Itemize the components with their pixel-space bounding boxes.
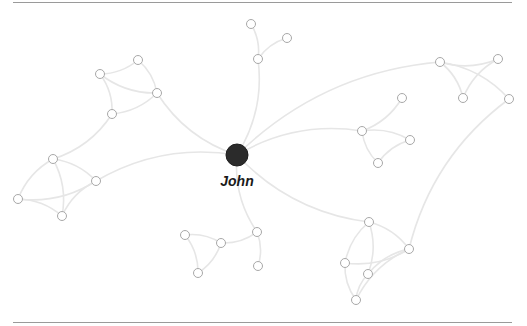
graph-node[interactable]: [283, 34, 292, 43]
graph-node[interactable]: [253, 228, 262, 237]
graph-edge: [62, 181, 96, 216]
graph-node[interactable]: [406, 136, 415, 145]
graph-node[interactable]: [365, 218, 374, 227]
graph-edge: [53, 159, 64, 216]
graph-edge: [237, 129, 362, 155]
graph-edge: [237, 155, 369, 222]
graph-edge: [440, 62, 509, 99]
graph-node[interactable]: [96, 70, 105, 79]
graph-edge: [18, 159, 53, 199]
graph-node[interactable]: [494, 55, 503, 64]
graph-node[interactable]: [181, 231, 190, 240]
graph-node[interactable]: [247, 20, 256, 29]
center-node-label: John: [220, 173, 253, 189]
graph-edge: [100, 60, 138, 74]
graph-edge: [157, 93, 237, 155]
network-graph: John: [0, 0, 527, 326]
graph-edge: [345, 263, 356, 300]
graph-node[interactable]: [254, 55, 263, 64]
graph-node[interactable]: [358, 127, 367, 136]
graph-edge: [198, 243, 221, 273]
graph-edge: [440, 62, 463, 98]
graph-edge: [100, 74, 112, 114]
graph-node[interactable]: [398, 94, 407, 103]
graph-node[interactable]: [352, 296, 361, 305]
graph-node[interactable]: [134, 56, 143, 65]
graph-node[interactable]: [374, 159, 383, 168]
graph-node[interactable]: [405, 245, 414, 254]
graph-edge: [362, 131, 378, 163]
graph-edge: [18, 199, 62, 216]
graph-edge: [18, 181, 96, 200]
graph-edge: [53, 159, 96, 181]
graph-node[interactable]: [505, 95, 514, 104]
graph-node[interactable]: [459, 94, 468, 103]
graph-node[interactable]: [108, 110, 117, 119]
graph-node[interactable]: [436, 58, 445, 67]
graph-edge: [362, 130, 410, 140]
center-node-john[interactable]: [226, 144, 248, 166]
graph-edge: [185, 235, 198, 273]
edge-layer: [18, 24, 509, 300]
graph-edge: [96, 152, 237, 181]
graph-edge: [378, 140, 410, 163]
graph-node[interactable]: [49, 155, 58, 164]
graph-edge: [369, 222, 409, 249]
graph-node[interactable]: [364, 270, 373, 279]
graph-edge: [362, 98, 402, 131]
graph-edge: [112, 93, 157, 114]
graph-node[interactable]: [194, 269, 203, 278]
graph-node[interactable]: [341, 259, 350, 268]
graph-edge: [138, 60, 157, 93]
graph-edge: [409, 99, 509, 249]
graph-edge: [236, 155, 257, 232]
graph-node[interactable]: [92, 177, 101, 186]
graph-edge: [368, 222, 373, 274]
graph-edge: [251, 24, 259, 59]
graph-edge: [258, 38, 287, 59]
graph-edge: [53, 114, 112, 159]
graph-node[interactable]: [254, 262, 263, 271]
graph-node[interactable]: [58, 212, 67, 221]
graph-node[interactable]: [153, 89, 162, 98]
graph-node[interactable]: [217, 239, 226, 248]
graph-edge: [257, 232, 261, 266]
node-layer: [14, 20, 514, 305]
graph-edge: [221, 232, 257, 243]
graph-node[interactable]: [14, 195, 23, 204]
graph-edge: [345, 222, 369, 263]
graph-edge: [237, 59, 259, 155]
